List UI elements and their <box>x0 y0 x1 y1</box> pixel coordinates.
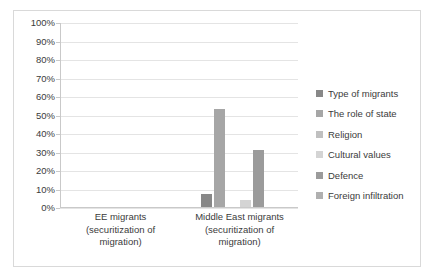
legend-label: The role of state <box>328 109 397 119</box>
bars-layer <box>61 23 298 207</box>
legend-label: Cultural values <box>328 150 391 160</box>
x-axis-category-label: EE migrants(securitization ofmigration) <box>61 211 180 249</box>
legend-swatch-icon <box>316 131 323 138</box>
legend-label: Religion <box>328 130 362 140</box>
legend-label: Type of migrants <box>328 89 398 99</box>
y-axis-tick-label: 80% <box>36 55 55 65</box>
legend-swatch-icon <box>316 110 323 117</box>
legend-item[interactable]: Defence <box>316 165 420 186</box>
y-axis-tick-label: 40% <box>36 129 55 139</box>
legend-label: Foreign infiltration <box>328 191 404 201</box>
x-axis-category-line: (securitization of <box>182 224 297 237</box>
y-axis-tick-label: 20% <box>36 166 55 176</box>
legend-item[interactable]: The role of state <box>316 104 420 125</box>
legend-swatch-icon <box>316 151 323 158</box>
x-axis: EE migrants(securitization ofmigration)M… <box>61 211 299 249</box>
chart-container: 100%90%80%70%60%50%40%30%20%10%0% EE mig… <box>13 10 421 267</box>
bar-group <box>61 23 180 207</box>
legend-item[interactable]: Type of migrants <box>316 83 420 104</box>
bar <box>240 200 251 207</box>
x-axis-category-line: (securitization of <box>63 224 178 237</box>
y-axis-tick-label: 30% <box>36 148 55 158</box>
x-axis-category-label: Middle East migrants(securitization ofmi… <box>180 211 299 249</box>
plot-wrapper: 100%90%80%70%60%50%40%30%20%10%0% EE mig… <box>14 11 304 266</box>
bar <box>201 194 212 207</box>
legend-swatch-icon <box>316 192 323 199</box>
y-axis: 100%90%80%70%60%50%40%30%20%10%0% <box>14 23 58 208</box>
bar <box>214 109 225 207</box>
legend: Type of migrantsThe role of stateReligio… <box>316 83 420 206</box>
x-axis-category-line: EE migrants <box>63 211 178 224</box>
bar <box>253 150 264 207</box>
legend-label: Defence <box>328 171 363 181</box>
bar-group <box>180 23 299 207</box>
y-axis-tick-label: 0% <box>41 203 55 213</box>
gridline <box>60 208 298 209</box>
x-axis-category-line: migration) <box>63 236 178 249</box>
plot-area <box>60 23 298 208</box>
legend-item[interactable]: Cultural values <box>316 145 420 166</box>
y-axis-tick-label: 100% <box>31 18 55 28</box>
legend-item[interactable]: Religion <box>316 124 420 145</box>
legend-swatch-icon <box>316 90 323 97</box>
x-axis-line <box>60 207 298 208</box>
x-axis-category-line: Middle East migrants <box>182 211 297 224</box>
y-axis-tick-label: 90% <box>36 37 55 47</box>
y-axis-tick-label: 10% <box>36 185 55 195</box>
legend-swatch-icon <box>316 172 323 179</box>
y-axis-tick-label: 70% <box>36 74 55 84</box>
x-axis-category-line: migration) <box>182 236 297 249</box>
y-axis-tick-mark <box>56 208 60 209</box>
y-axis-tick-label: 50% <box>36 111 55 121</box>
legend-item[interactable]: Foreign infiltration <box>316 186 420 207</box>
y-axis-tick-label: 60% <box>36 92 55 102</box>
